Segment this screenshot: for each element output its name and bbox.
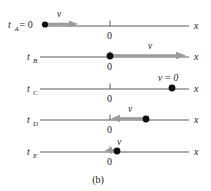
particle-dot-C	[169, 85, 176, 92]
axis-name-E: x	[193, 146, 199, 157]
time-label-E: t	[27, 146, 30, 157]
origin-label-E: 0	[107, 156, 112, 167]
particle-dot-A	[42, 21, 48, 27]
origin-label-B: 0	[107, 61, 112, 72]
time-label-D: t	[27, 114, 30, 125]
velocity-label-E: v	[117, 137, 122, 147]
motion-row-C: t C v = 0 0 x	[27, 73, 199, 104]
velocity-arrow-head-A	[69, 20, 78, 27]
origin-label-C: 0	[107, 93, 112, 104]
particle-dot-E	[114, 148, 121, 155]
axis-name-B: x	[193, 51, 199, 62]
time-suffix-A: = 0	[20, 19, 33, 30]
time-subscript-E: E	[32, 152, 38, 160]
origin-label-A: 0	[107, 30, 112, 41]
time-label-C: t	[27, 83, 30, 94]
origin-label-D: 0	[107, 124, 112, 135]
particle-dot-B	[107, 53, 114, 60]
velocity-label-C: v = 0	[158, 73, 178, 83]
axis-name-C: x	[193, 83, 199, 94]
velocity-arrow-head-E	[105, 147, 112, 154]
motion-row-E: t E v 0 x	[27, 137, 199, 167]
velocity-label-B: v	[148, 41, 153, 51]
time-label-B: t	[27, 51, 30, 62]
figure-caption: (b)	[92, 174, 104, 186]
axis-name-D: x	[193, 114, 199, 125]
time-label-A: t	[8, 19, 11, 30]
time-subscript-B: B	[33, 57, 38, 65]
velocity-label-A: v	[57, 9, 62, 19]
velocity-arrow-head-B	[176, 52, 186, 60]
time-subscript-D: D	[32, 120, 38, 128]
motion-row-A: t A = 0 v 0 x	[8, 9, 199, 41]
velocity-label-D: v	[128, 104, 133, 114]
time-subscript-C: C	[33, 89, 38, 97]
motion-diagram-svg: t A = 0 v 0 x t B v 0 x t C v = 0	[0, 0, 211, 191]
motion-row-D: t D v 0 x	[27, 104, 199, 135]
axis-name-A: x	[193, 20, 199, 31]
velocity-arrow-head-D	[111, 115, 120, 123]
motion-row-B: t B v 0 x	[27, 41, 199, 72]
motion-diagram-figure: t A = 0 v 0 x t B v 0 x t C v = 0	[0, 0, 211, 191]
particle-dot-D	[143, 116, 150, 123]
